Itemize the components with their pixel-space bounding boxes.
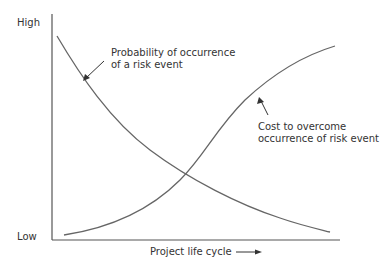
cost-arrow bbox=[261, 101, 268, 115]
probability-annotation-line2: of a risk event bbox=[111, 59, 183, 70]
cost-annotation-line1: Cost to overcome bbox=[258, 121, 346, 132]
arrow-right-icon bbox=[255, 250, 262, 255]
risk-cost-diagram: High Low Project life cycle Probability … bbox=[0, 0, 385, 268]
probability-annotation-line1: Probability of occurrence bbox=[111, 47, 235, 58]
x-axis-label: Project life cycle bbox=[150, 246, 232, 257]
y-low-label: Low bbox=[17, 231, 37, 242]
cost-annotation-line2: occurrence of risk event bbox=[258, 133, 379, 144]
arrowhead-icon bbox=[257, 97, 264, 104]
probability-arrow bbox=[86, 61, 104, 78]
y-high-label: High bbox=[17, 17, 40, 28]
